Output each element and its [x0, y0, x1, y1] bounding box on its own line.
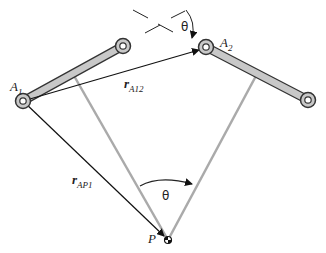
dashed-reference-line	[145, 25, 160, 33]
joint-link2-end	[301, 93, 316, 108]
linkage-diagram	[0, 0, 326, 253]
dashed-reference-line	[158, 24, 173, 32]
dashed-reference-line	[171, 11, 185, 18]
joint-A2	[199, 40, 214, 55]
label-P: P	[148, 232, 156, 245]
label-A1: A1	[10, 80, 22, 97]
theta-arc-P	[140, 180, 192, 186]
label-theta-P: θ	[162, 190, 169, 202]
label-A2: A2	[220, 36, 232, 53]
vector-r-AP1	[23, 101, 164, 236]
gray-line-link1-to-P	[73, 74, 168, 240]
label-r-AP1: rAP1	[72, 173, 93, 190]
dashed-reference-line	[133, 10, 148, 18]
point-P	[165, 237, 172, 244]
gray-line-link2-to-P	[168, 74, 257, 240]
label-theta-top: θ	[181, 21, 188, 33]
joint-link1-end	[116, 39, 131, 54]
label-r-A12: rA12	[124, 77, 144, 94]
